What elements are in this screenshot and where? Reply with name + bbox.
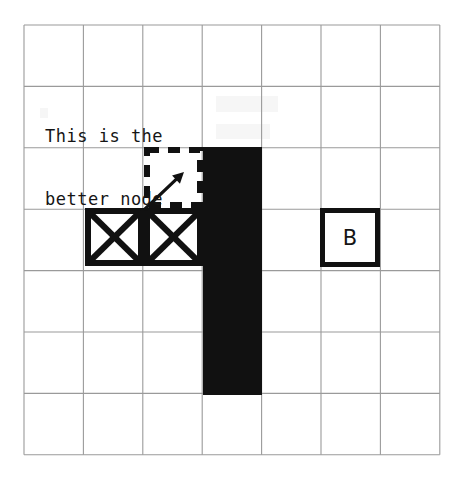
annotation-line-2: better node: [45, 189, 163, 210]
annotation-line-1: This is the: [45, 126, 163, 147]
pathfinding-grid-figure: This is the better node B: [0, 0, 475, 482]
wall-obstacle: [203, 147, 262, 395]
goal-node-label: B: [320, 208, 380, 267]
annotation-text: This is the better node: [45, 84, 163, 252]
